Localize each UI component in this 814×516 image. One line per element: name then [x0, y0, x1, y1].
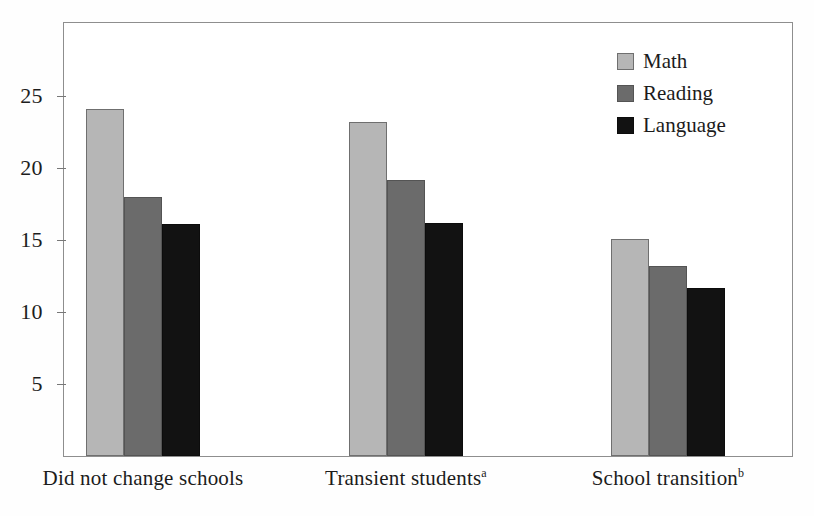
chart-legend: MathReadingLanguage [617, 45, 787, 141]
legend-swatch-math-icon [617, 53, 634, 70]
bar-language [687, 288, 725, 456]
x-axis-category-label: School transitionb [528, 466, 808, 491]
y-axis-tick-label: 10 [20, 299, 43, 325]
legend-label: Language [643, 113, 726, 137]
x-axis-labels: Did not change schoolsTransient students… [63, 466, 793, 506]
x-axis-category-footnote: b [738, 466, 744, 480]
bar-math [611, 239, 649, 456]
legend-item: Language [617, 109, 787, 141]
legend-item: Reading [617, 77, 787, 109]
bar-math [86, 109, 124, 456]
bar-chart-figure: 252015105 MathReadingLanguage Did not ch… [0, 0, 814, 516]
x-axis-category-label: Transient studentsa [266, 466, 546, 491]
bar-reading [124, 197, 162, 456]
x-axis-category-text: Transient students [325, 466, 481, 490]
y-axis: 252015105 [0, 0, 63, 516]
legend-swatch-reading-icon [617, 85, 634, 102]
y-axis-tick-label: 5 [32, 371, 43, 397]
bar-math [349, 122, 387, 456]
x-axis-category-label: Did not change schools [3, 466, 283, 491]
y-axis-tick-label: 20 [20, 155, 43, 181]
bar-language [162, 224, 200, 456]
x-axis-category-footnote: a [481, 466, 487, 480]
y-axis-tick-label: 15 [20, 227, 43, 253]
legend-label: Reading [643, 81, 713, 105]
bar-reading [387, 180, 425, 456]
y-axis-tick-label: 25 [20, 83, 43, 109]
x-axis-category-text: School transition [592, 466, 738, 490]
x-axis-category-text: Did not change schools [43, 466, 244, 490]
bar-language [425, 223, 463, 456]
legend-item: Math [617, 45, 787, 77]
legend-label: Math [643, 49, 687, 73]
bar-reading [649, 266, 687, 456]
legend-swatch-language-icon [617, 117, 634, 134]
